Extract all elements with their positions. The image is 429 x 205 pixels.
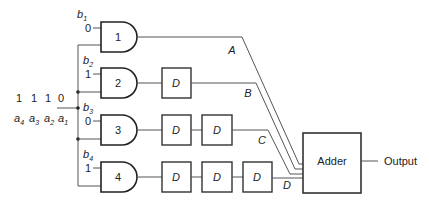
input-label-a4: a4	[14, 112, 24, 126]
wire-label-b: B	[244, 87, 251, 99]
coef-value-4: 1	[85, 162, 91, 174]
coef-value-1: 0	[85, 22, 91, 34]
adder-label: Adder	[317, 155, 347, 167]
input-label-a3: a3	[29, 112, 39, 126]
output-label: Output	[384, 155, 417, 167]
wire-label-c: C	[258, 134, 266, 146]
coef-label-3: b3	[83, 101, 93, 115]
delay-label: D	[172, 77, 180, 89]
wire-label-a: A	[227, 44, 235, 56]
gate-3-label: 3	[115, 124, 121, 136]
coef-label-2: b2	[83, 54, 93, 68]
coef-label-1: b1	[77, 8, 87, 22]
coef-label-4: b4	[83, 148, 93, 162]
input-bit-a3: 1	[31, 92, 37, 104]
circuit-diagram: 1 2 3 4 0 1 0 1 b1 b2 b3 b4 1 1 1 0 a4 a…	[0, 0, 429, 205]
gate-2-label: 2	[115, 77, 121, 89]
gate-4-label: 4	[115, 171, 121, 183]
junction-dot	[76, 106, 80, 110]
delay-label: D	[172, 171, 180, 183]
input-label-a1: a1	[58, 112, 68, 126]
wire-label-d: D	[283, 179, 291, 191]
delay-label: D	[172, 124, 180, 136]
coef-value-2: 1	[85, 68, 91, 80]
delay-label: D	[213, 124, 221, 136]
input-bit-a1: 0	[58, 92, 64, 104]
input-label-a2: a2	[44, 112, 54, 126]
input-bit-a4: 1	[16, 92, 22, 104]
coef-value-3: 0	[85, 115, 91, 127]
delay-label: D	[213, 171, 221, 183]
gate-1-label: 1	[115, 31, 121, 43]
delay-label: D	[253, 171, 261, 183]
input-bit-a2: 1	[45, 92, 51, 104]
